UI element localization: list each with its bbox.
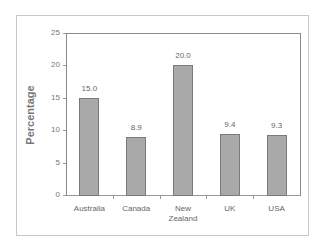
x-tick-label-line: Canada <box>113 204 159 214</box>
x-tick-mark <box>253 196 254 199</box>
bar-canada <box>126 137 146 196</box>
y-tick-label: 15 <box>46 93 60 102</box>
y-tick-label: 20 <box>46 60 60 69</box>
x-tick-label: NewZealand <box>160 204 206 224</box>
y-tick-mark <box>63 163 66 164</box>
y-tick-label: 5 <box>46 158 60 167</box>
y-tick-mark <box>63 33 66 34</box>
x-tick-label: USA <box>254 204 300 214</box>
x-tick-label-line: Australia <box>66 204 112 214</box>
bar-new-zealand <box>173 65 193 196</box>
value-label: 9.4 <box>215 120 245 129</box>
x-tick-mark <box>206 196 207 199</box>
value-label: 8.9 <box>121 123 151 132</box>
x-tick-label-line: UK <box>207 204 253 214</box>
y-tick-label: 25 <box>46 28 60 37</box>
bar-australia <box>79 98 99 196</box>
y-tick-mark <box>63 98 66 99</box>
value-label: 9.3 <box>262 121 292 130</box>
bar-uk <box>220 134 240 196</box>
y-axis-label: Percentage <box>24 85 36 144</box>
x-tick-mark <box>113 196 114 199</box>
y-tick-mark <box>63 130 66 131</box>
bar-usa <box>267 135 287 196</box>
y-tick-mark <box>63 195 66 196</box>
x-tick-label-line: USA <box>254 204 300 214</box>
x-tick-mark <box>160 196 161 199</box>
x-tick-label-line: New <box>160 204 206 214</box>
y-tick-mark <box>63 65 66 66</box>
x-tick-label: UK <box>207 204 253 214</box>
y-tick-label: 10 <box>46 125 60 134</box>
x-tick-label-line: Zealand <box>160 214 206 224</box>
value-label: 15.0 <box>74 84 104 93</box>
x-tick-label: Australia <box>66 204 112 214</box>
y-tick-label: 0 <box>46 190 60 199</box>
x-tick-label: Canada <box>113 204 159 214</box>
value-label: 20.0 <box>168 51 198 60</box>
